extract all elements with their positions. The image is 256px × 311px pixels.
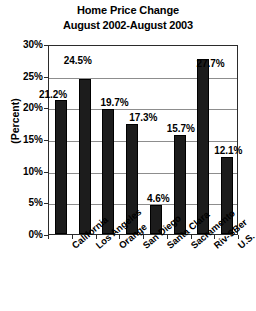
data-label: 17.3% bbox=[129, 112, 157, 123]
chart-title-line-2: August 2002-August 2003 bbox=[0, 18, 256, 33]
x-axis-label: San Diego bbox=[141, 243, 147, 251]
home-price-change-chart: Home Price Change August 2002-August 200… bbox=[0, 0, 256, 311]
x-axis-label: Orange bbox=[117, 243, 123, 251]
y-axis-title: (Percent) bbox=[9, 76, 21, 166]
y-axis-tick-label: 5% bbox=[3, 198, 43, 208]
data-label: 19.7% bbox=[100, 97, 128, 108]
data-label: 15.7% bbox=[167, 123, 195, 134]
y-axis-tick-label: 0% bbox=[3, 230, 43, 240]
x-axis-label: Los Angeles bbox=[94, 243, 100, 251]
x-axis-label: U.S. bbox=[236, 243, 242, 251]
data-label: 4.6% bbox=[147, 193, 170, 204]
plot-area bbox=[48, 45, 238, 235]
data-label: 21.2% bbox=[39, 89, 67, 100]
x-axis-label: Sacramento bbox=[189, 243, 195, 251]
data-label: 24.5% bbox=[64, 55, 92, 66]
chart-title: Home Price Change August 2002-August 200… bbox=[0, 3, 256, 32]
chart-title-line-1: Home Price Change bbox=[0, 3, 256, 18]
data-label: 12.1% bbox=[214, 145, 242, 156]
x-axis-label: Riv-SBer bbox=[212, 243, 218, 251]
y-axis-tick-label: 25% bbox=[3, 72, 43, 82]
x-axis-tick-mark bbox=[48, 235, 49, 239]
y-axis-tick-label: 30% bbox=[3, 40, 43, 50]
bar bbox=[79, 79, 91, 234]
y-axis-tick-label: 20% bbox=[3, 103, 43, 113]
y-axis-tick-label: 15% bbox=[3, 135, 43, 145]
x-axis-label: Santa Clara bbox=[165, 243, 171, 251]
data-label: 27.7% bbox=[196, 58, 224, 69]
y-axis-tick-label: 10% bbox=[3, 167, 43, 177]
bar bbox=[55, 100, 67, 234]
x-axis-label: California bbox=[70, 243, 76, 251]
